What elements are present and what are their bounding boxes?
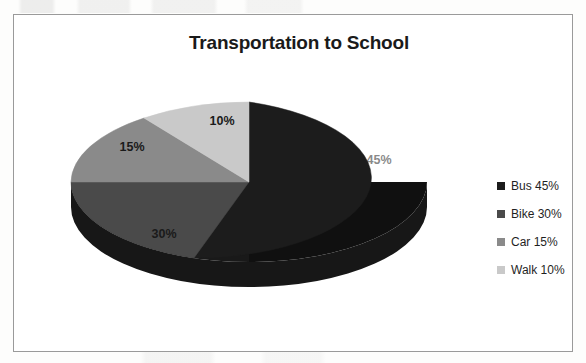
legend-item-bike[interactable]: Bike 30%	[497, 203, 586, 225]
legend-item-bus[interactable]: Bus 45%	[497, 175, 586, 197]
legend-item-car[interactable]: Car 15%	[497, 231, 586, 253]
legend-item-walk[interactable]: Walk 10%	[497, 259, 586, 281]
chart-title: Transportation to School	[14, 32, 572, 54]
legend-swatch-icon	[497, 266, 505, 274]
pie-label-bike: 30%	[151, 227, 176, 241]
legend-label-bus: Bus 45%	[511, 179, 559, 193]
scan-artifact-bottom	[20, 352, 500, 363]
pie-label-bus: 45%	[366, 153, 391, 167]
legend-swatch-icon	[497, 182, 505, 190]
legend-label-walk: Walk 10%	[511, 263, 565, 277]
pie-svg: 45% 30% 15% 10%	[59, 75, 439, 315]
chart-container: Transportation to School	[13, 14, 573, 352]
chart-legend: Bus 45% Bike 30% Car 15% Walk 10%	[497, 175, 586, 287]
legend-label-bike: Bike 30%	[511, 207, 562, 221]
pie-label-walk: 10%	[209, 114, 234, 128]
legend-label-car: Car 15%	[511, 235, 558, 249]
pie-chart-graphic: 45% 30% 15% 10%	[59, 75, 439, 315]
scan-artifact-top	[0, 0, 586, 13]
legend-swatch-icon	[497, 238, 505, 246]
pie-label-car: 15%	[119, 140, 144, 154]
legend-swatch-icon	[497, 210, 505, 218]
